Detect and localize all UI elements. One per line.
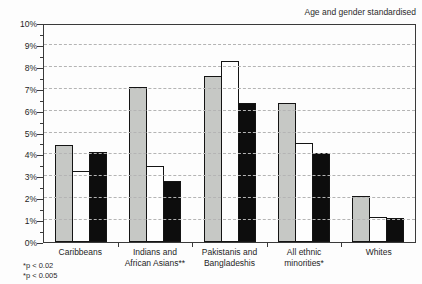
bar: [278, 103, 296, 242]
y-minor-tick: [40, 57, 43, 58]
bar: [204, 76, 222, 242]
y-major-tick: [37, 177, 43, 178]
gridline-5pct: [44, 132, 415, 133]
y-minor-tick: [40, 144, 43, 145]
chart-figure: Age and gender standardised No full-time…: [0, 0, 422, 284]
y-major-tick: [37, 68, 43, 69]
y-minor-tick: [40, 166, 43, 167]
bar: [72, 171, 90, 242]
bar: [369, 217, 387, 242]
y-major-tick: [37, 243, 43, 244]
bar-group-3: [192, 25, 266, 242]
category-label-5: Whites: [341, 247, 416, 269]
footnote-2: *p < 0.005: [23, 271, 57, 281]
gridline-1pct: [44, 219, 415, 220]
y-tick-label-1pct: 1%: [0, 216, 37, 226]
y-minor-tick: [40, 210, 43, 211]
y-minor-tick: [40, 79, 43, 80]
x-axis-category-labels: CaribbeansIndians and African Asians**Pa…: [43, 247, 416, 269]
y-tick-label-4pct: 4%: [0, 150, 37, 160]
bar-group-2: [118, 25, 192, 242]
plot-area: [43, 24, 416, 243]
category-label-2: Indians and African Asians**: [118, 247, 193, 269]
bar: [163, 181, 181, 242]
y-minor-tick: [40, 123, 43, 124]
gridline-6pct: [44, 110, 415, 111]
y-minor-tick: [40, 35, 43, 36]
category-label-4: All ethnic minorities*: [267, 247, 342, 269]
gridline-8pct: [44, 66, 415, 67]
y-major-tick: [37, 221, 43, 222]
y-tick-label-8pct: 8%: [0, 63, 37, 73]
y-minor-tick: [40, 232, 43, 233]
bar: [146, 166, 164, 242]
gridline-9pct: [44, 44, 415, 45]
bar-group-4: [267, 25, 341, 242]
bar: [238, 103, 256, 242]
bar: [295, 143, 313, 242]
y-tick-label-7pct: 7%: [0, 85, 37, 95]
y-major-tick: [37, 46, 43, 47]
gridline-7pct: [44, 88, 415, 89]
y-minor-tick: [40, 101, 43, 102]
y-tick-label-3pct: 3%: [0, 172, 37, 182]
chart-title: Age and gender standardised: [304, 7, 416, 17]
y-major-tick: [37, 134, 43, 135]
y-minor-tick: [40, 188, 43, 189]
footnotes: *p < 0.02 *p < 0.005: [23, 261, 57, 281]
y-major-tick: [37, 24, 43, 25]
y-tick-label-2pct: 2%: [0, 194, 37, 204]
y-major-tick: [37, 199, 43, 200]
bar-group-1: [44, 25, 118, 242]
y-major-tick: [37, 155, 43, 156]
category-label-3: Pakistanis and Bangladeshis: [192, 247, 267, 269]
gridline-4pct: [44, 153, 415, 154]
bar-group-5: [341, 25, 415, 242]
gridline-2pct: [44, 197, 415, 198]
y-tick-label-10pct: 10%: [0, 19, 37, 29]
y-tick-label-9pct: 9%: [0, 41, 37, 51]
y-major-tick: [37, 90, 43, 91]
footnote-1: *p < 0.02: [23, 261, 57, 271]
y-tick-label-0pct: 0%: [0, 238, 37, 248]
bar: [386, 218, 404, 242]
gridline-3pct: [44, 175, 415, 176]
bars-row: [44, 25, 415, 242]
y-major-tick: [37, 112, 43, 113]
bar: [55, 145, 73, 242]
y-tick-label-5pct: 5%: [0, 129, 37, 139]
y-tick-label-6pct: 6%: [0, 107, 37, 117]
